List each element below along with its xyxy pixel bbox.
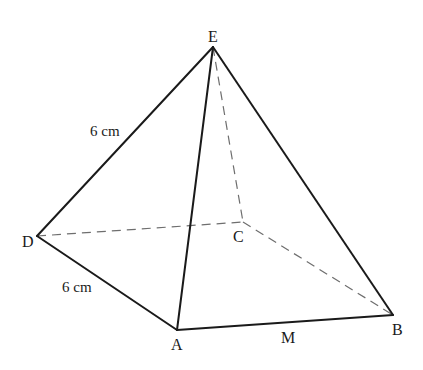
hidden-edges: [37, 47, 393, 315]
measurement-labels: 6 cm 6 cm: [62, 123, 120, 295]
vertex-label-C: C: [233, 228, 244, 245]
edge-DA: [37, 236, 177, 330]
pyramid-diagram: E D C A B M 6 cm 6 cm: [0, 0, 423, 370]
vertex-label-B: B: [392, 321, 403, 338]
edge-DC: [37, 222, 243, 236]
edge-EA: [177, 47, 213, 330]
vertex-label-E: E: [208, 28, 218, 45]
edge-ED-length: 6 cm: [90, 123, 120, 139]
edge-AB: [177, 315, 393, 330]
vertex-label-D: D: [22, 233, 34, 250]
vertex-label-A: A: [171, 336, 183, 353]
edge-CB: [243, 222, 393, 315]
edge-DA-length: 6 cm: [62, 279, 92, 295]
point-label-M: M: [281, 329, 295, 346]
edge-ED: [37, 47, 213, 236]
edge-EB: [213, 47, 393, 315]
edge-EC: [213, 47, 243, 222]
